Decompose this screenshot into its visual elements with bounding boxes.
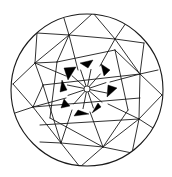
circular-tiling-diagram	[0, 0, 172, 177]
mesh-edge	[140, 70, 158, 74]
mesh-edge	[115, 39, 144, 43]
mesh-edge	[35, 33, 37, 63]
mesh-edge	[103, 119, 139, 147]
spoke-line	[90, 90, 107, 93]
ring-edge	[57, 50, 115, 62]
mesh-edge	[69, 13, 93, 35]
ring-edge	[115, 50, 140, 74]
black-triangle	[101, 64, 110, 76]
center-hub-circle	[84, 86, 90, 92]
black-triangle	[61, 99, 70, 108]
mesh-edge	[93, 13, 115, 39]
mesh-edge	[40, 142, 61, 143]
black-triangle	[107, 85, 117, 97]
spoke-line	[88, 69, 91, 86]
mesh-edge	[115, 23, 126, 39]
ring-edge	[69, 35, 78, 70]
mesh-edge	[37, 33, 69, 35]
mesh-edge	[139, 119, 153, 128]
mesh-edge	[13, 63, 35, 84]
mesh-edge	[103, 147, 132, 153]
mesh-edge	[140, 74, 162, 95]
ring-edge	[35, 63, 66, 76]
ring-edge	[43, 85, 61, 143]
black-triangle	[74, 110, 89, 116]
mesh-edge	[61, 143, 80, 167]
mesh-edge	[15, 107, 33, 113]
mesh-edge	[80, 147, 103, 167]
ring-edge	[110, 74, 140, 82]
mesh-edge	[33, 85, 43, 107]
mesh-edge	[57, 35, 69, 62]
ring-edge	[90, 112, 103, 147]
ring-edge	[103, 110, 128, 147]
ring-edge	[61, 110, 72, 143]
spoke-line	[83, 92, 86, 109]
black-triangle	[60, 80, 67, 92]
mesh-edge	[139, 74, 140, 119]
mesh-edge	[140, 43, 144, 74]
spoke-line	[67, 85, 84, 88]
mesh-edge	[69, 35, 115, 39]
mesh-edge	[13, 84, 33, 107]
mesh-edge	[35, 62, 57, 63]
mesh-edge	[35, 35, 69, 63]
black-triangle	[80, 60, 93, 68]
